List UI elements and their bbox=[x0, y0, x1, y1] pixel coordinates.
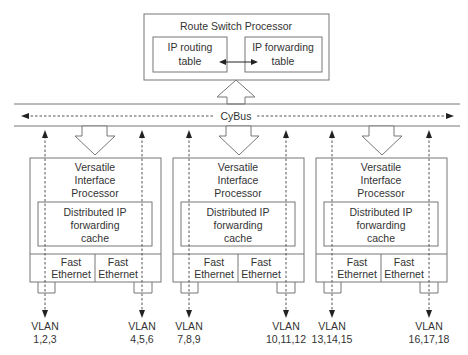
cache-label-2: forwarding bbox=[356, 219, 405, 231]
cybus-label: CyBus bbox=[221, 110, 252, 122]
port-2-label-2: Ethernet bbox=[384, 268, 424, 280]
cache-label-3: cache bbox=[367, 232, 395, 244]
port-connector-2 bbox=[134, 282, 152, 293]
port-2-label-1: Fast bbox=[394, 256, 415, 268]
bus-arrow-left-icon bbox=[21, 113, 29, 119]
port-1-label-2: Ethernet bbox=[51, 268, 91, 280]
down-arrow-icon bbox=[42, 310, 48, 318]
cache-label-3: cache bbox=[81, 232, 109, 244]
down-arrow-icon bbox=[186, 310, 192, 318]
down-arrow-icon bbox=[426, 310, 432, 318]
vlan-label: VLAN bbox=[31, 320, 58, 332]
down-arrow-icon bbox=[139, 310, 145, 318]
bus-arrow-right-icon bbox=[446, 113, 454, 119]
up-arrow-icon bbox=[426, 130, 432, 138]
bus-to-vip-arrow-icon bbox=[75, 126, 115, 155]
cache-label-3: cache bbox=[224, 232, 252, 244]
port-1-label-1: Fast bbox=[61, 256, 82, 268]
ip-forwarding-table-label-1: IP forwarding bbox=[252, 41, 314, 53]
ip-forwarding-table-label-2: table bbox=[272, 55, 295, 67]
vip-title-1: Versatile bbox=[361, 161, 401, 173]
port-1-label-1: Fast bbox=[204, 256, 225, 268]
port-2-label-1: Fast bbox=[251, 256, 272, 268]
ip-routing-table-label-1: IP routing bbox=[168, 41, 213, 53]
cache-label-1: Distributed IP bbox=[63, 206, 126, 218]
port-2-label-1: Fast bbox=[108, 256, 129, 268]
vlan-label: VLAN bbox=[318, 320, 345, 332]
ip-routing-table-label-2: table bbox=[179, 55, 202, 67]
up-arrow-icon bbox=[329, 130, 335, 138]
route-switch-processor: Route Switch Processor IP routing table … bbox=[144, 14, 329, 80]
vlan-label: VLAN bbox=[175, 320, 202, 332]
vip-title-3: Processor bbox=[357, 187, 405, 199]
vip-title-2: Interface bbox=[75, 174, 116, 186]
vlan-ids: 4,5,6 bbox=[130, 333, 154, 345]
port-1-label-2: Ethernet bbox=[194, 268, 234, 280]
vip-architecture-diagram: Route Switch Processor IP routing table … bbox=[0, 0, 468, 355]
up-arrow-icon bbox=[42, 130, 48, 138]
vip-title-2: Interface bbox=[361, 174, 402, 186]
vip-title-1: Versatile bbox=[75, 161, 115, 173]
vip-title-3: Processor bbox=[214, 187, 262, 199]
up-arrow-icon bbox=[283, 130, 289, 138]
vip-card-3: Versatile Interface Processor Distribute… bbox=[312, 126, 450, 345]
cache-label-1: Distributed IP bbox=[349, 206, 412, 218]
vlan-label: VLAN bbox=[272, 320, 299, 332]
rsp-bus-up-arrow-icon bbox=[217, 80, 255, 104]
cache-label-1: Distributed IP bbox=[206, 206, 269, 218]
rsp-title: Route Switch Processor bbox=[180, 20, 293, 32]
vlan-label: VLAN bbox=[128, 320, 155, 332]
vip-title-2: Interface bbox=[218, 174, 259, 186]
vip-card-2: Versatile Interface Processor Distribute… bbox=[173, 126, 306, 345]
vip-title-1: Versatile bbox=[218, 161, 258, 173]
port-1-label-2: Ethernet bbox=[337, 268, 377, 280]
bus-to-vip-arrow-icon bbox=[219, 126, 259, 155]
up-arrow-icon bbox=[186, 130, 192, 138]
cybus: CyBus bbox=[14, 104, 460, 126]
vlan-label: VLAN bbox=[415, 320, 442, 332]
cache-label-2: forwarding bbox=[213, 219, 262, 231]
vip-card-1: Versatile Interface Processor Distribute… bbox=[30, 126, 161, 345]
down-arrow-icon bbox=[329, 310, 335, 318]
port-2-label-2: Ethernet bbox=[98, 268, 138, 280]
port-2-label-2: Ethernet bbox=[241, 268, 281, 280]
vip-title-3: Processor bbox=[71, 187, 119, 199]
vlan-ids: 10,11,12 bbox=[266, 333, 306, 345]
port-connector-1 bbox=[38, 282, 55, 293]
cache-label-2: forwarding bbox=[70, 219, 119, 231]
vlan-ids: 1,2,3 bbox=[33, 333, 57, 345]
vlan-ids: 13,14,15 bbox=[312, 333, 353, 345]
vlan-ids: 7,8,9 bbox=[177, 333, 201, 345]
vlan-ids: 16,17,18 bbox=[409, 333, 450, 345]
up-arrow-icon bbox=[139, 130, 145, 138]
down-arrow-icon bbox=[283, 310, 289, 318]
port-1-label-1: Fast bbox=[347, 256, 368, 268]
bus-to-vip-arrow-icon bbox=[362, 126, 402, 155]
